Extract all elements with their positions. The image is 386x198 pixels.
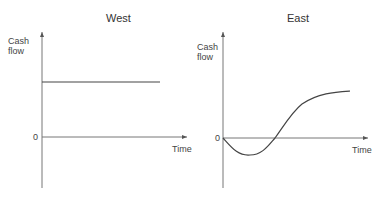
east-zero-label: 0 bbox=[215, 133, 220, 143]
west-chart bbox=[42, 32, 187, 188]
west-xlabel: Time bbox=[172, 144, 192, 154]
charts-canvas bbox=[0, 0, 386, 198]
east-xlabel: Time bbox=[352, 145, 372, 155]
west-title: West bbox=[106, 12, 131, 24]
east-ylabel: Cash flow bbox=[197, 42, 218, 62]
east-cash-flow-curve bbox=[223, 91, 350, 155]
east-title: East bbox=[287, 12, 309, 24]
west-ylabel: Cash flow bbox=[8, 36, 29, 56]
west-zero-label: 0 bbox=[33, 132, 38, 142]
east-chart bbox=[223, 32, 368, 188]
